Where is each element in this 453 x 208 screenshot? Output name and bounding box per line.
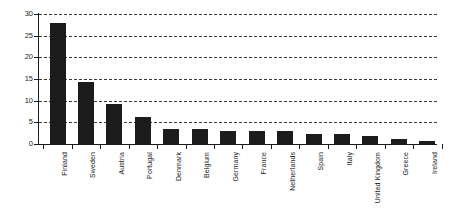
x-tick-mark xyxy=(43,144,44,149)
bar-chart: 051015202530 FinlandSwedenAustriaPortuga… xyxy=(0,0,453,208)
gridline xyxy=(39,57,437,58)
gridline xyxy=(39,122,437,123)
bar xyxy=(362,136,378,144)
bar xyxy=(192,129,208,144)
x-tick-mark xyxy=(271,144,272,149)
x-axis-line xyxy=(38,144,437,145)
x-axis-category-label: Belgium xyxy=(203,152,210,178)
bar xyxy=(106,104,122,144)
y-tick-label: 30 xyxy=(0,10,33,18)
x-axis-category-label: Sweden xyxy=(89,152,96,178)
gridline xyxy=(39,36,437,37)
y-tick-label: 0 xyxy=(0,140,33,148)
x-tick-mark xyxy=(214,144,215,149)
x-axis-category-label: Ireland xyxy=(431,152,438,174)
y-tick-label: 10 xyxy=(0,97,33,105)
bar xyxy=(249,131,265,144)
x-tick-mark xyxy=(186,144,187,149)
x-tick-mark xyxy=(242,144,243,149)
gridline xyxy=(39,101,437,102)
plot-area xyxy=(39,14,437,144)
x-tick-mark xyxy=(129,144,130,149)
x-axis-category-label: Portugal xyxy=(146,152,153,179)
bar xyxy=(306,134,322,144)
x-tick-mark xyxy=(328,144,329,149)
y-tick-label: 15 xyxy=(0,75,33,83)
x-axis-category-label: United Kingdom xyxy=(374,152,381,203)
x-axis-category-label: Germany xyxy=(232,152,239,182)
y-tick-mark xyxy=(34,101,39,102)
y-tick-mark xyxy=(34,122,39,123)
y-tick-mark xyxy=(34,57,39,58)
x-tick-mark xyxy=(356,144,357,149)
x-tick-mark xyxy=(100,144,101,149)
bar xyxy=(334,134,350,144)
x-axis-category-label: Greece xyxy=(402,152,409,176)
bar xyxy=(277,131,293,144)
x-axis-category-label: France xyxy=(260,152,267,174)
x-axis-category-label: Denmark xyxy=(175,152,182,181)
bar xyxy=(135,117,151,144)
bar xyxy=(78,82,94,144)
x-tick-mark xyxy=(157,144,158,149)
y-tick-mark xyxy=(34,36,39,37)
x-tick-mark xyxy=(299,144,300,149)
x-axis-category-label: Finland xyxy=(61,152,68,176)
x-axis-category-label: Netherlands xyxy=(289,152,296,191)
x-axis-category-label: Italy xyxy=(346,152,353,165)
x-tick-mark xyxy=(413,144,414,149)
y-tick-mark xyxy=(34,144,39,145)
x-tick-mark xyxy=(385,144,386,149)
bar xyxy=(163,129,179,144)
x-axis-category-label: Spain xyxy=(317,152,324,170)
bar xyxy=(50,23,66,144)
y-tick-mark xyxy=(34,14,39,15)
x-axis-category-label: Austria xyxy=(118,152,125,175)
y-tick-mark xyxy=(34,79,39,80)
y-tick-label: 20 xyxy=(0,54,33,62)
bar xyxy=(220,131,236,144)
gridline xyxy=(39,14,437,15)
x-tick-mark xyxy=(72,144,73,149)
x-tick-mark xyxy=(442,144,443,149)
y-tick-label: 5 xyxy=(0,119,33,127)
y-tick-label: 25 xyxy=(0,32,33,40)
gridline xyxy=(39,79,437,80)
